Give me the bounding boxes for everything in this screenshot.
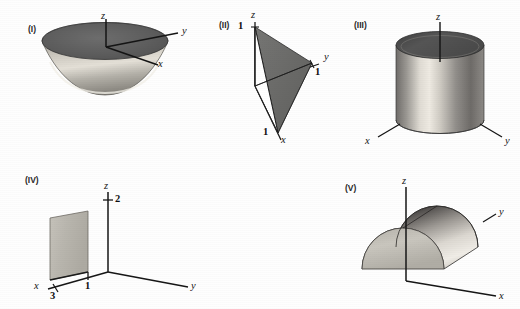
figure-4-x-tick-label: 3 <box>50 290 55 301</box>
figure-2-z-label: z <box>251 9 255 20</box>
figure-2-z-tick-label: 1 <box>238 20 243 31</box>
figure-4-tag: (IV) <box>25 175 39 185</box>
figure-2-y-label: y <box>324 51 329 62</box>
figure-5-x-label: x <box>499 290 504 301</box>
figure-5-tag: (V) <box>345 183 356 193</box>
figure-3-x-axis <box>378 124 400 137</box>
figure-3-y-label: y <box>505 135 510 146</box>
figure-5-y-label: y <box>499 206 504 217</box>
figure-5-half-cylinder: (V) z y x <box>300 165 520 309</box>
figure-5-y-axis <box>483 214 496 222</box>
figure-4-z-label: z <box>104 180 108 191</box>
figure-2-tetrahedron: (II) z 1 y 1 x 1 <box>215 0 340 155</box>
figure-4-plane: (IV) z 2 y 1 x 3 <box>20 170 220 309</box>
figure-3-z-label: z <box>436 11 440 22</box>
figure-1-paraboloid: (I) z y x <box>0 0 210 110</box>
figure-3-x-label: x <box>365 135 370 146</box>
figure-2-x-label: x <box>281 134 286 145</box>
figure-2-x-tick-label: 1 <box>263 126 268 137</box>
figure-3-y-axis <box>480 124 502 137</box>
figure-2-tag: (II) <box>219 20 229 30</box>
figure-4-y-axis <box>108 272 188 287</box>
figure-4-y-label: y <box>191 280 196 291</box>
figure-2-y-tick-label: 1 <box>315 66 320 77</box>
figure-5-x-axis <box>406 281 496 296</box>
figure-4-x-label: x <box>34 280 39 291</box>
figure-3-cylinder: (III) z x y <box>340 0 520 155</box>
figure-4-y-tick-label: 1 <box>85 280 90 291</box>
figure-1-tag: (I) <box>28 24 36 34</box>
figure-5-z-label: z <box>402 175 406 186</box>
figure-1-y-label: y <box>182 25 187 36</box>
paraboloid-top-disk <box>42 23 168 60</box>
plane-face <box>50 211 88 280</box>
figure-3-canvas <box>340 0 520 155</box>
figure-plate: (I) z y x <box>0 0 520 309</box>
figure-3-tag: (III) <box>354 20 367 30</box>
figure-1-x-label: x <box>158 58 163 69</box>
figure-1-z-label: z <box>101 10 105 21</box>
figure-2-canvas <box>215 0 340 155</box>
figure-5-canvas <box>300 165 520 309</box>
figure-4-canvas <box>20 170 220 309</box>
figure-4-z-tick-label: 2 <box>115 193 120 204</box>
